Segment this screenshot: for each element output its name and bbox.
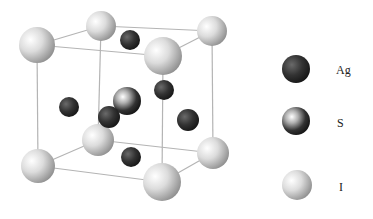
iodine-atom bbox=[197, 16, 227, 46]
iodine-atom bbox=[143, 163, 181, 201]
silver-atom bbox=[121, 147, 141, 167]
iodine-atom bbox=[144, 37, 182, 75]
legend-label-i: I bbox=[339, 180, 343, 195]
iodine-atom bbox=[21, 149, 55, 183]
legend-swatch-s bbox=[282, 107, 310, 135]
legend-label-ag: Ag bbox=[336, 63, 351, 78]
iodine-atom bbox=[86, 11, 116, 41]
silver-atom bbox=[120, 30, 140, 50]
legend-swatches bbox=[282, 55, 312, 200]
silver-atom bbox=[154, 80, 174, 100]
crystal-structure-diagram bbox=[0, 0, 373, 219]
legend-swatch-i bbox=[282, 170, 312, 200]
silver-atom bbox=[177, 109, 199, 131]
iodine-atom bbox=[82, 124, 114, 156]
silver-atom bbox=[98, 106, 120, 128]
silver-atom bbox=[59, 97, 79, 117]
iodine-atom bbox=[197, 137, 229, 169]
legend-label-s: S bbox=[337, 116, 344, 131]
iodine-atom bbox=[19, 27, 55, 63]
legend-swatch-ag bbox=[282, 55, 310, 83]
